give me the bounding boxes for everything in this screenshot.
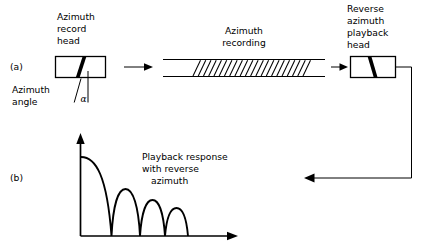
arrow-right-icon-2	[331, 63, 348, 71]
tape-label-line2: recording	[222, 37, 266, 48]
playback-head-label-line3: playback	[347, 27, 389, 38]
feedback-path	[304, 67, 412, 182]
playback-head-label-line2: azimuth	[347, 15, 384, 26]
azimuth-angle-label-line2: angle	[12, 96, 38, 107]
panel-a-label: (a)	[10, 61, 23, 72]
plot-caption-line3: azimuth	[151, 175, 188, 186]
plot-caption-line1: Playback response	[142, 151, 228, 162]
record-head-icon	[56, 57, 106, 78]
panel-b-label: (b)	[10, 172, 23, 183]
arrow-right-icon-1	[124, 63, 153, 71]
azimuth-angle-label-line1: Azimuth	[12, 84, 50, 95]
figure-canvas: (a) Azimuth record head Azimuth angle α …	[0, 0, 423, 244]
playback-head-label-line1: Reverse	[347, 3, 384, 14]
record-head-label-line3: head	[57, 35, 80, 46]
plot-caption-line2: with reverse	[142, 163, 199, 174]
magnetic-tape-icon	[163, 60, 325, 77]
azimuth-recording-figure: (a) Azimuth record head Azimuth angle α …	[0, 0, 423, 244]
response-plot-axes	[76, 133, 238, 240]
playback-head-icon	[351, 57, 396, 78]
azimuth-angle-symbol: α	[81, 94, 87, 104]
tape-label-line1: Azimuth	[225, 25, 263, 36]
record-head-label-line1: Azimuth	[57, 11, 95, 22]
tape-hatch-group	[193, 60, 311, 76]
record-head-label-line2: record	[57, 23, 86, 34]
playback-head-label-line4: head	[347, 39, 370, 50]
